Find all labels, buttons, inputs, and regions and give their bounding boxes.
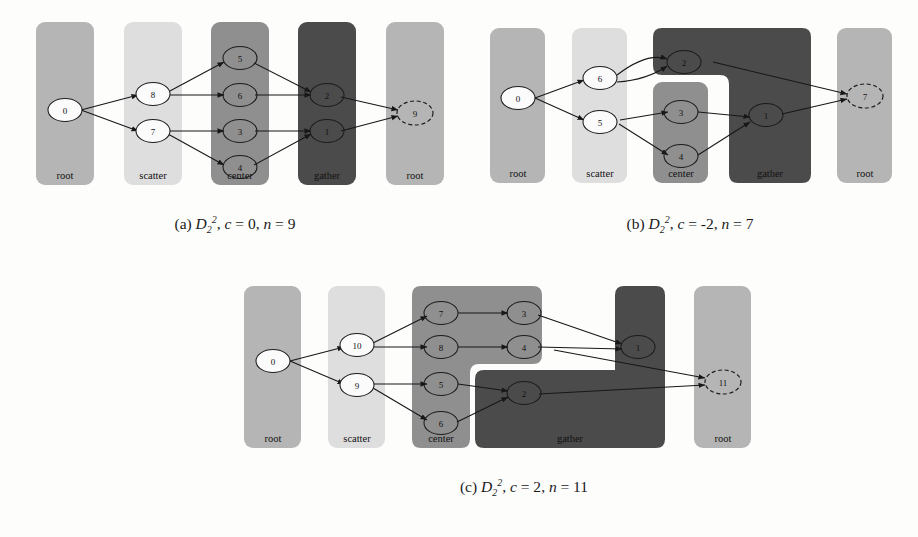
node-label: 2 xyxy=(325,91,330,101)
caption-a: (a) D22, c = 0, n = 9 xyxy=(0,214,470,235)
node-label: 2 xyxy=(522,389,527,399)
node-label: 7 xyxy=(863,92,868,102)
region-scatter-b xyxy=(572,28,627,183)
region-root2-c xyxy=(694,286,751,448)
region-label-root2: root xyxy=(715,433,732,444)
node-label: 9 xyxy=(355,381,360,391)
node-label: 6 xyxy=(439,419,444,429)
node-9-c[interactable]: 9 xyxy=(340,374,374,397)
node-label: 6 xyxy=(238,91,243,101)
node-label: 1 xyxy=(325,127,330,137)
node-label: 4 xyxy=(522,343,527,353)
node-label: 7 xyxy=(151,127,156,137)
node-label: 5 xyxy=(238,54,243,64)
panel-a: 0 8 7 5 6 3 4 2 xyxy=(0,0,470,205)
node-label: 8 xyxy=(439,343,444,353)
region-label-root2: root xyxy=(857,168,874,179)
region-scatter-c xyxy=(328,286,385,448)
caption-c-text: (c) D22, c = 2, n = 11 xyxy=(460,478,588,495)
node-label: 10 xyxy=(353,341,363,351)
region-label-gather: gather xyxy=(557,433,584,444)
node-label: 0 xyxy=(271,357,276,367)
region-root2-a xyxy=(386,22,444,185)
node-label: 9 xyxy=(413,109,418,119)
node-5-b[interactable]: 5 xyxy=(583,111,617,134)
node-label: 5 xyxy=(598,118,603,128)
node-label: 3 xyxy=(522,309,527,319)
caption-b: (b) D22, c = -2, n = 7 xyxy=(462,214,918,235)
region-label-root: root xyxy=(265,433,282,444)
region-root2-b xyxy=(837,28,892,183)
region-label-gather: gather xyxy=(757,168,784,179)
node-7-a[interactable]: 7 xyxy=(136,120,170,143)
node-0-c[interactable]: 0 xyxy=(256,350,290,373)
caption-c: (c) D22, c = 2, n = 11 xyxy=(224,477,824,498)
node-6-b[interactable]: 6 xyxy=(583,67,617,90)
panel-b: 0 6 5 2 3 4 1 7 root scat xyxy=(462,0,918,205)
region-label-center: center xyxy=(428,433,454,444)
node-label: 2 xyxy=(682,58,687,68)
node-0-a[interactable]: 0 xyxy=(48,99,82,122)
caption-a-text: (a) D22, c = 0, n = 9 xyxy=(175,215,296,232)
panel-b-graph: 0 6 5 2 3 4 1 7 root scat xyxy=(462,0,918,205)
region-label-scatter: scatter xyxy=(586,168,614,179)
node-label: 0 xyxy=(63,106,68,116)
region-label-center: center xyxy=(668,168,694,179)
panel-c-graph: 0 10 9 7 8 5 6 3 xyxy=(224,258,824,468)
node-label: 7 xyxy=(439,309,444,319)
node-label: 6 xyxy=(598,74,603,84)
node-label: 8 xyxy=(151,90,156,100)
node-label: 0 xyxy=(516,94,521,104)
node-label: 1 xyxy=(636,343,641,353)
panel-c: 0 10 9 7 8 5 6 3 xyxy=(224,258,824,468)
node-label: 3 xyxy=(238,127,243,137)
node-label: 3 xyxy=(679,108,684,118)
region-label-root: root xyxy=(57,170,74,181)
region-label-root: root xyxy=(510,168,527,179)
node-label: 4 xyxy=(679,152,684,162)
node-0-b[interactable]: 0 xyxy=(501,87,535,110)
node-label: 5 xyxy=(439,380,444,390)
node-8-a[interactable]: 8 xyxy=(136,83,170,106)
region-label-scatter: scatter xyxy=(139,170,167,181)
caption-b-text: (b) D22, c = -2, n = 7 xyxy=(627,215,754,232)
node-label: 1 xyxy=(764,111,769,121)
region-label-center: center xyxy=(227,170,253,181)
region-gather-a xyxy=(298,22,356,185)
region-label-root2: root xyxy=(407,170,424,181)
panel-a-graph: 0 8 7 5 6 3 4 2 xyxy=(0,0,470,205)
region-label-gather: gather xyxy=(314,170,341,181)
region-label-scatter: scatter xyxy=(343,433,371,444)
node-label: 11 xyxy=(719,378,728,388)
node-10-c[interactable]: 10 xyxy=(340,334,374,357)
